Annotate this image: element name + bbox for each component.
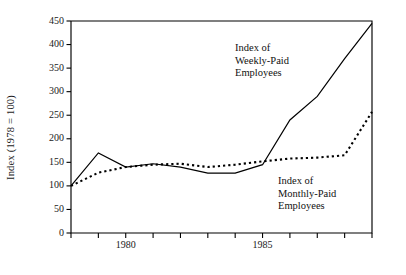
y-tick-label: 350 xyxy=(28,62,64,73)
chart-figure: Index (1978 = 100) 050100150200250300350… xyxy=(0,0,406,275)
y-tick-label: 100 xyxy=(28,179,64,190)
x-tick-label: 1985 xyxy=(243,239,283,250)
y-tick-label: 450 xyxy=(28,15,64,26)
annotation-monthly-paid: Index of Monthly-Paid Employees xyxy=(278,175,336,213)
y-tick-label: 200 xyxy=(28,132,64,143)
y-tick-label: 400 xyxy=(28,38,64,49)
y-tick-label: 250 xyxy=(28,109,64,120)
x-tick-label: 1980 xyxy=(106,239,146,250)
y-tick-label: 0 xyxy=(28,227,64,238)
y-tick-label: 50 xyxy=(28,203,64,214)
y-tick-label: 300 xyxy=(28,85,64,96)
y-tick-label: 150 xyxy=(28,156,64,167)
annotation-weekly-paid: Index of Weekly-Paid Employees xyxy=(235,42,289,80)
